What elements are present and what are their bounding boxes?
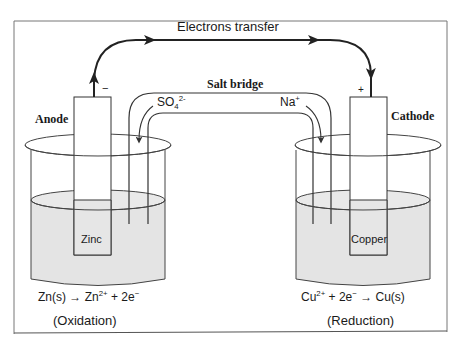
anode-electron-charge: − bbox=[135, 289, 140, 298]
anode-product: Zn bbox=[85, 290, 99, 304]
cathode-electrons: + 2e bbox=[329, 290, 353, 304]
cathode-reactant: Cu bbox=[301, 290, 316, 304]
zinc-label: Zinc bbox=[81, 234, 102, 245]
oxidation-label: (Oxidation) bbox=[53, 314, 117, 327]
reaction-arrow-icon: → bbox=[360, 290, 372, 304]
reduction-label: (Reduction) bbox=[327, 314, 394, 327]
cathode-electron-charge: − bbox=[352, 289, 357, 298]
salt-bridge-label: Salt bridge bbox=[207, 78, 263, 90]
anode-reaction: Zn(s) → Zn2+ + 2e− bbox=[38, 291, 139, 303]
cathode-polarity: + bbox=[358, 85, 364, 95]
cation-charge: + bbox=[295, 94, 300, 103]
cation-label: Na+ bbox=[280, 96, 300, 108]
cathode-electrode bbox=[350, 97, 387, 255]
anode-electrons: + 2e bbox=[111, 290, 135, 304]
anode-product-charge: 2+ bbox=[99, 289, 108, 298]
cathode-reaction: Cu2+ + 2e− → Cu(s) bbox=[301, 291, 405, 303]
anion-subscript: 4 bbox=[174, 102, 178, 111]
copper-label: Copper bbox=[351, 234, 387, 245]
cathode-reactant-charge: 2+ bbox=[316, 289, 325, 298]
anion-arrow-icon bbox=[139, 106, 153, 140]
reaction-arrow-icon: → bbox=[69, 290, 81, 304]
anode-label: Anode bbox=[35, 113, 68, 125]
electrons-transfer-label: Electrons transfer bbox=[177, 20, 279, 33]
cathode-product: Cu(s) bbox=[376, 290, 405, 304]
anode-reactant: Zn(s) bbox=[38, 290, 66, 304]
anode-polarity: − bbox=[102, 83, 108, 94]
anion-charge: 2- bbox=[179, 94, 186, 103]
anion-base: SO bbox=[157, 95, 174, 109]
anode-electrode bbox=[74, 97, 111, 255]
cathode-label: Cathode bbox=[391, 110, 434, 122]
cation-base: Na bbox=[280, 95, 295, 109]
anion-label: SO42- bbox=[157, 96, 186, 108]
